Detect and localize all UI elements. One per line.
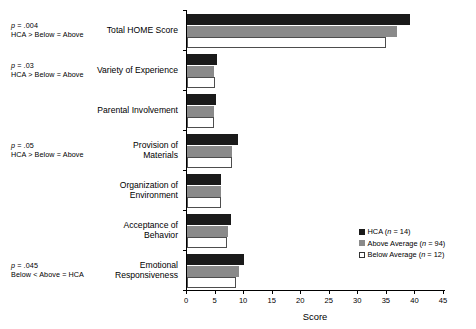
- category-label-line: Organization of: [58, 180, 178, 190]
- bar: [187, 117, 214, 128]
- bar: [187, 157, 232, 168]
- category-label-group: Total HOME ScoreVariety of ExperiencePar…: [56, 0, 178, 300]
- x-axis-title: Score: [186, 311, 444, 322]
- category-label: Parental Involvement: [58, 105, 178, 115]
- category-label: EmotionalResponsiveness: [58, 260, 178, 281]
- legend-label: Above Average (n = 94): [368, 238, 446, 250]
- x-axis-line: [186, 290, 445, 291]
- x-axis-tick-label: 30: [345, 296, 369, 305]
- y-axis-tick: [183, 10, 186, 11]
- x-axis-tick-label: 25: [317, 296, 341, 305]
- y-axis-tick: [183, 210, 186, 211]
- legend-swatch-icon: [359, 229, 365, 235]
- bar: [187, 14, 410, 25]
- category-label-line: Variety of Experience: [58, 65, 178, 75]
- x-axis-tick-label: 35: [374, 296, 398, 305]
- category-label-line: Total HOME Score: [58, 25, 178, 35]
- x-axis-tick: [243, 291, 244, 294]
- bar: [187, 197, 221, 208]
- x-axis-tick: [443, 291, 444, 294]
- bar: [187, 277, 236, 288]
- x-axis-tick-label: 15: [260, 296, 284, 305]
- x-axis-tick-label: 5: [203, 296, 227, 305]
- category-label-line: Acceptance of: [58, 220, 178, 230]
- legend-label: HCA (n = 14): [368, 226, 411, 238]
- category-label-line: Materials: [58, 150, 178, 160]
- bar: [187, 54, 217, 65]
- bar: [187, 66, 214, 77]
- x-axis-tick: [186, 291, 187, 294]
- bar: [187, 37, 386, 48]
- x-axis-tick: [300, 291, 301, 294]
- bar: [187, 26, 397, 37]
- legend-swatch-icon: [359, 252, 365, 258]
- x-axis-tick: [386, 291, 387, 294]
- bar: [187, 94, 216, 105]
- x-axis-tick-label: 20: [288, 296, 312, 305]
- bar: [187, 266, 239, 277]
- x-axis-tick-label: 45: [431, 296, 455, 305]
- category-label: Organization ofEnvironment: [58, 180, 178, 201]
- bar: [187, 186, 221, 197]
- y-axis-tick: [183, 90, 186, 91]
- category-label-line: Behavior: [58, 230, 178, 240]
- x-axis-tick: [215, 291, 216, 294]
- bar: [187, 237, 227, 248]
- bar: [187, 254, 244, 265]
- x-axis-tick-label: 10: [231, 296, 255, 305]
- bar: [187, 174, 221, 185]
- bar: [187, 134, 238, 145]
- bar: [187, 77, 215, 88]
- y-axis-tick: [183, 170, 186, 171]
- category-label-line: Parental Involvement: [58, 105, 178, 115]
- category-label: Provision ofMaterials: [58, 140, 178, 161]
- category-label: Total HOME Score: [58, 25, 178, 35]
- x-axis-tick: [329, 291, 330, 294]
- category-label-line: Responsiveness: [58, 270, 178, 280]
- category-label-line: Provision of: [58, 140, 178, 150]
- x-axis-tick: [272, 291, 273, 294]
- legend-swatch-icon: [359, 240, 365, 246]
- legend-label: Below Average (n = 12): [368, 249, 445, 261]
- y-axis-tick: [183, 50, 186, 51]
- bar: [187, 226, 228, 237]
- category-label: Variety of Experience: [58, 65, 178, 75]
- bar: [187, 106, 214, 117]
- x-axis-tick: [414, 291, 415, 294]
- bar-chart: p = .004HCA > Below = Abovep = .03HCA > …: [0, 0, 476, 329]
- legend-item[interactable]: Above Average (n = 94): [359, 238, 445, 250]
- category-label: Acceptance ofBehavior: [58, 220, 178, 241]
- x-axis-tick-label: 40: [402, 296, 426, 305]
- legend-item[interactable]: Below Average (n = 12): [359, 249, 445, 261]
- chart-legend: HCA (n = 14)Above Average (n = 94)Below …: [359, 226, 445, 261]
- bar: [187, 146, 232, 157]
- bar: [187, 214, 231, 225]
- category-label-line: Emotional: [58, 260, 178, 270]
- y-axis-tick: [183, 130, 186, 131]
- x-axis-tick: [357, 291, 358, 294]
- y-axis-tick: [183, 250, 186, 251]
- legend-item[interactable]: HCA (n = 14): [359, 226, 445, 238]
- x-axis-tick-label: 0: [174, 296, 198, 305]
- category-label-line: Environment: [58, 190, 178, 200]
